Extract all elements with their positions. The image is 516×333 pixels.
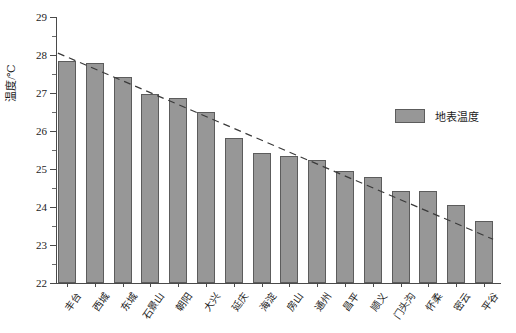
x-axis-label: 延庆: [227, 289, 251, 314]
x-tick: [289, 283, 290, 287]
x-tick: [95, 283, 96, 287]
x-axis-label: 密云: [450, 289, 474, 314]
x-axis-label: 房山: [283, 289, 307, 314]
y-tick-minor-23.5: [52, 226, 56, 227]
x-axis-label: 大兴: [199, 289, 223, 314]
x-axis-label: 昌平: [339, 289, 363, 314]
y-tick-label-26: 26: [21, 126, 47, 137]
y-tick-29: 29: [50, 17, 56, 18]
x-axis-label: 朝阳: [172, 289, 196, 314]
y-tick-23: 23: [50, 245, 56, 246]
x-axis-label: 东城: [116, 289, 140, 314]
x-tick: [150, 283, 151, 287]
bar: [58, 61, 76, 283]
chart-container: 温度/℃ 2223242526272829 丰台西城东城石景山朝阳大兴延庆海淀房…: [0, 0, 516, 333]
bar: [253, 153, 271, 283]
x-axis-label: 平谷: [478, 289, 502, 314]
x-tick: [401, 283, 402, 287]
y-tick-22: 22: [50, 283, 56, 284]
bar: [225, 138, 243, 283]
y-tick-label-23: 23: [21, 240, 47, 251]
y-tick-label-24: 24: [21, 202, 47, 213]
x-tick: [234, 283, 235, 287]
x-tick: [456, 283, 457, 287]
y-tick-minor-24.5: [52, 188, 56, 189]
legend: 地表温度: [395, 108, 479, 124]
y-tick-minor-25.5: [52, 150, 56, 151]
y-tick-label-28: 28: [21, 50, 47, 61]
legend-swatch-surface-temperature: [395, 109, 425, 123]
bar: [197, 112, 215, 283]
y-tick-minor-26.5: [52, 112, 56, 113]
bar: [86, 63, 104, 283]
x-tick: [178, 283, 179, 287]
y-tick-25: 25: [50, 169, 56, 170]
x-axis-label: 丰台: [60, 289, 84, 314]
bar: [114, 77, 132, 283]
x-tick: [67, 283, 68, 287]
y-tick-label-22: 22: [21, 278, 47, 289]
y-tick-26: 26: [50, 131, 56, 132]
x-tick: [345, 283, 346, 287]
bar: [475, 221, 493, 283]
bar: [308, 160, 326, 284]
bar: [280, 156, 298, 283]
x-tick: [373, 283, 374, 287]
x-axis-label: 门头沟: [388, 289, 417, 322]
y-tick-24: 24: [50, 207, 56, 208]
x-axis-label: 石景山: [138, 289, 167, 322]
x-axis-label: 海淀: [255, 289, 279, 314]
x-axis-label: 西城: [88, 289, 112, 314]
x-tick: [206, 283, 207, 287]
x-tick: [123, 283, 124, 287]
y-tick-27: 27: [50, 93, 56, 94]
x-tick: [317, 283, 318, 287]
x-axis-label: 顺义: [366, 289, 390, 314]
legend-label-surface-temperature: 地表温度: [435, 108, 479, 124]
bar: [141, 94, 159, 283]
x-tick: [262, 283, 263, 287]
bar: [336, 171, 354, 283]
bar: [447, 205, 465, 283]
y-axis-title: 温度/℃: [2, 38, 18, 128]
y-tick-label-29: 29: [21, 12, 47, 23]
y-tick-28: 28: [50, 55, 56, 56]
x-tick: [484, 283, 485, 287]
bar: [392, 191, 410, 283]
x-tick: [428, 283, 429, 287]
x-axis-label: 怀柔: [422, 289, 446, 314]
bar: [419, 191, 437, 283]
y-tick-minor-22.5: [52, 264, 56, 265]
bar: [169, 98, 187, 283]
y-axis-line: [56, 17, 57, 284]
y-tick-minor-27.5: [52, 74, 56, 75]
y-tick-label-25: 25: [21, 164, 47, 175]
bar: [364, 177, 382, 283]
x-axis-label: 通州: [311, 289, 335, 314]
y-tick-label-27: 27: [21, 88, 47, 99]
y-tick-minor-28.5: [52, 36, 56, 37]
